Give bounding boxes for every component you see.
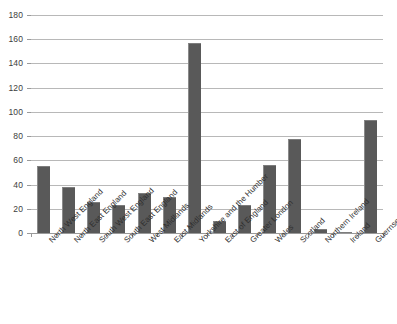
bar-chart: 020406080100120140160180 North West Engl… [0, 0, 397, 324]
bar-slot [333, 15, 358, 233]
x-label-wales: Wales [274, 239, 280, 245]
x-label-northern-ireland: Northern Ireland [324, 239, 330, 245]
bar-slot [207, 15, 232, 233]
x-label-ireland: Ireland [349, 239, 355, 245]
y-tick-label-120: 120 [0, 84, 23, 93]
x-axis-category-labels: North West EnglandNorth East EnglandSout… [0, 233, 397, 324]
x-label-east-of-england: East of England [224, 239, 230, 245]
x-label-north-west-england: North West England [48, 239, 54, 245]
y-tick-label-180: 180 [0, 11, 23, 20]
y-tick-label-20: 20 [0, 205, 23, 214]
x-label-guernsey: Guernsey [374, 239, 380, 245]
y-tick-label-60: 60 [0, 156, 23, 165]
bar[interactable] [364, 120, 377, 233]
bar[interactable] [288, 139, 301, 233]
y-tick-label-140: 140 [0, 59, 23, 68]
y-tick-label-160: 160 [0, 35, 23, 44]
bar-slot [31, 15, 56, 233]
x-label-yorkshire-and-the-humber: Yorkshire and the Humber [198, 239, 204, 245]
x-label-west-midlands: West Midlands [148, 239, 154, 245]
y-tick-label-100: 100 [0, 108, 23, 117]
x-label-south-west-england: South West England [98, 239, 104, 245]
bar-slot [182, 15, 207, 233]
x-label-north-east-england: North East England [73, 239, 79, 245]
bar[interactable] [188, 43, 201, 233]
y-tick-label-80: 80 [0, 132, 23, 141]
x-label-scotland: Scotland [299, 239, 305, 245]
x-label-south-east-england: South East England [123, 239, 129, 245]
bar-slot [308, 15, 333, 233]
y-tick-label-40: 40 [0, 181, 23, 190]
x-label-east-midlands: East Midlands [173, 239, 179, 245]
bar[interactable] [37, 166, 50, 233]
bar-slot [56, 15, 81, 233]
x-label-greater-london: Greater London [249, 239, 255, 245]
